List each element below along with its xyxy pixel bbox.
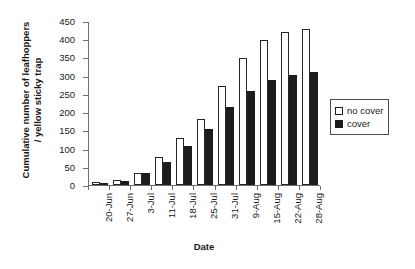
y-tick-label: 150: [49, 125, 75, 136]
bar-no-cover: [176, 138, 184, 185]
y-axis-title-line2: / yellow sticky trap: [31, 58, 42, 142]
bar-cover: [247, 91, 255, 185]
y-tick-label: 100: [49, 144, 75, 155]
y-tick: 200: [83, 113, 88, 114]
chart-legend: no covercover: [330, 99, 389, 135]
y-tick-label: 0: [49, 180, 75, 191]
legend-label: cover: [347, 118, 370, 129]
x-tick: [215, 186, 216, 190]
x-label-cell: 20-Jun: [88, 191, 109, 239]
bar-group: [194, 22, 215, 185]
x-axis-ticks: [88, 186, 320, 190]
legend-item: no cover: [335, 104, 383, 117]
x-tick: [257, 186, 258, 190]
y-tick-label: 250: [49, 89, 75, 100]
bar-cover: [268, 80, 276, 185]
y-axis-title: Cumulative number of leafhoppers / yello…: [8, 0, 54, 200]
y-tick: 350: [83, 58, 88, 59]
x-axis-title: Date: [88, 241, 320, 252]
y-tick: 400: [83, 40, 88, 41]
x-label-cell: 27-Jun: [109, 191, 130, 239]
bar-cover: [163, 162, 171, 185]
y-tick-label: 350: [49, 52, 75, 63]
y-tick-label: 50: [49, 162, 75, 173]
x-label-cell: 31-Jul: [215, 191, 236, 239]
bar-group: [89, 22, 110, 185]
x-tick: [172, 186, 173, 190]
bar-cover: [100, 183, 108, 185]
x-axis-tick-labels: 20-Jun27-Jun3-Jul11-Jul18-Jul25-Jul31-Ju…: [88, 191, 320, 239]
bar-no-cover: [113, 180, 121, 185]
legend-swatch-cover: [335, 120, 343, 128]
x-tick: [88, 186, 89, 190]
x-label-cell: 9-Aug: [236, 191, 257, 239]
bar-cover: [184, 146, 192, 185]
bar-no-cover: [281, 32, 289, 185]
y-tick: 50: [83, 168, 88, 169]
bar-group: [278, 22, 299, 185]
y-tick: 150: [83, 131, 88, 132]
legend-item: cover: [335, 117, 383, 130]
plot-area: 450400350300250200150100500: [88, 22, 320, 186]
x-tick: [278, 186, 279, 190]
x-tick: [299, 186, 300, 190]
bar-group: [131, 22, 152, 185]
bar-cover: [289, 75, 297, 185]
bar-no-cover: [134, 173, 142, 185]
bar-group: [110, 22, 131, 185]
y-tick-label: 300: [49, 71, 75, 82]
x-label-cell: 3-Jul: [130, 191, 151, 239]
y-tick: 100: [83, 150, 88, 151]
x-label-cell: 28-Aug: [299, 191, 320, 239]
bar-group: [257, 22, 278, 185]
y-tick: 450: [83, 22, 88, 23]
y-tick-label: 400: [49, 34, 75, 45]
x-label-cell: 11-Jul: [151, 191, 172, 239]
bar-cover: [142, 173, 150, 185]
x-label-cell: 25-Jul: [193, 191, 214, 239]
legend-swatch-nocover: [335, 107, 343, 115]
bar-no-cover: [155, 157, 163, 185]
bar-series-container: [89, 22, 320, 185]
y-tick-label: 450: [49, 16, 75, 27]
legend-label: no cover: [347, 105, 383, 116]
x-label-cell: 22-Aug: [278, 191, 299, 239]
bar-no-cover: [260, 40, 268, 185]
x-tick: [236, 186, 237, 190]
x-label-cell: 15-Aug: [257, 191, 278, 239]
x-tick: [193, 186, 194, 190]
x-tick-label: 28-Aug: [313, 193, 324, 224]
bar-no-cover: [239, 58, 247, 185]
y-tick: 250: [83, 95, 88, 96]
bar-no-cover: [92, 182, 100, 185]
chart-figure: Cumulative number of leafhoppers / yello…: [0, 0, 415, 269]
bar-group: [299, 22, 320, 185]
bar-cover: [310, 72, 318, 185]
bar-group: [152, 22, 173, 185]
bar-cover: [205, 129, 213, 185]
bar-cover: [226, 107, 234, 185]
x-tick: [151, 186, 152, 190]
y-axis-title-line1: Cumulative number of leafhoppers: [20, 22, 31, 179]
bar-group: [215, 22, 236, 185]
bar-group: [173, 22, 194, 185]
y-tick-label: 200: [49, 107, 75, 118]
bar-no-cover: [218, 86, 226, 185]
x-tick: [109, 186, 110, 190]
y-tick: 300: [83, 77, 88, 78]
bar-group: [236, 22, 257, 185]
bar-no-cover: [197, 119, 205, 185]
x-tick: [130, 186, 131, 190]
bar-cover: [121, 181, 129, 185]
x-tick: [320, 186, 321, 190]
x-label-cell: 18-Jul: [172, 191, 193, 239]
bar-no-cover: [302, 29, 310, 185]
